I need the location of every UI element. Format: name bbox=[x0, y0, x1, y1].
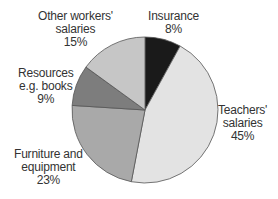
label-value: 15% bbox=[38, 36, 113, 49]
label-resources: Resources e.g. books 9% bbox=[18, 67, 74, 106]
label-value: 8% bbox=[148, 23, 199, 36]
label-value: 9% bbox=[18, 93, 74, 106]
label-insurance: Insurance 8% bbox=[148, 10, 199, 36]
label-value: 45% bbox=[218, 130, 267, 143]
label-teachers: Teachers' salaries 45% bbox=[218, 104, 267, 143]
label-other-workers: Other workers' salaries 15% bbox=[38, 10, 113, 49]
label-furniture: Furniture and equipment 23% bbox=[14, 148, 83, 187]
label-value: 23% bbox=[14, 174, 83, 187]
